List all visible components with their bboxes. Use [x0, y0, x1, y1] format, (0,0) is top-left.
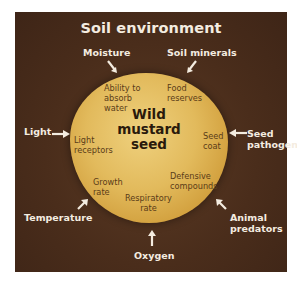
factor-seed-pathogens: Seed pathogens — [247, 128, 297, 150]
trait-food-reserves: Food reserves — [167, 83, 202, 103]
arrow-soil-minerals-icon — [185, 60, 197, 74]
trait-light-receptors: Light receptors — [74, 135, 113, 155]
trait-growth-rate: Growth rate — [93, 177, 123, 197]
arrow-oxygen-icon — [148, 230, 156, 246]
soil-environment-panel: Soil environment Wild mustard seed Abili… — [15, 12, 287, 272]
trait-absorb-water: Ability to absorb water — [104, 83, 141, 113]
factor-soil-minerals: Soil minerals — [167, 47, 237, 58]
trait-seed-coat: Seed coat — [203, 131, 223, 151]
factor-light: Light — [24, 126, 51, 137]
arrow-animal-predators-icon — [215, 198, 227, 210]
wild-mustard-seed: Wild mustard seed Ability to absorb wate… — [70, 73, 228, 223]
factor-animal-predators: Animal predators — [230, 212, 283, 234]
diagram-title: Soil environment — [15, 20, 287, 36]
arrow-moisture-icon — [107, 60, 119, 74]
trait-defensive-compounds: Defensive compounds — [170, 171, 218, 191]
arrow-light-icon — [52, 130, 70, 138]
arrow-temperature-icon — [77, 198, 89, 210]
trait-respiratory-rate: Respiratory rate — [125, 193, 172, 213]
factor-temperature: Temperature — [24, 212, 92, 223]
arrow-seed-pathogens-icon — [229, 129, 247, 137]
factor-oxygen: Oxygen — [134, 250, 174, 261]
factor-moisture: Moisture — [83, 47, 130, 58]
